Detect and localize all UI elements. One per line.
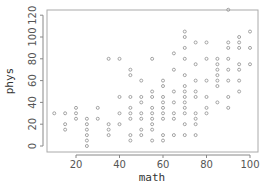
data-point (216, 74, 219, 77)
data-point (162, 134, 165, 137)
y-tick-label: 100 (27, 27, 38, 46)
data-point (107, 128, 110, 131)
data-point (118, 123, 121, 126)
data-point (162, 79, 165, 82)
data-point (172, 68, 175, 71)
data-point (129, 117, 132, 120)
data-point (183, 101, 186, 104)
data-point (140, 134, 143, 137)
data-point (194, 134, 197, 137)
data-point (162, 95, 165, 98)
data-point (129, 139, 132, 142)
data-point (75, 112, 78, 115)
x-tick-label: 20 (70, 159, 83, 170)
data-point (96, 117, 99, 120)
data-point (162, 139, 165, 142)
data-point (183, 106, 186, 109)
data-point (129, 68, 132, 71)
data-point (162, 85, 165, 88)
data-point (75, 106, 78, 109)
data-point (118, 57, 121, 60)
data-point (151, 95, 154, 98)
data-point (129, 74, 132, 77)
data-point (227, 95, 230, 98)
data-point (238, 79, 241, 82)
data-point (140, 112, 143, 115)
data-point (249, 63, 252, 66)
data-point (216, 85, 219, 88)
x-tick-label: 80 (200, 159, 213, 170)
data-point (183, 134, 186, 137)
data-point (96, 106, 99, 109)
data-point (205, 112, 208, 115)
data-point (151, 57, 154, 60)
x-tick-label: 40 (113, 159, 126, 170)
data-point (183, 30, 186, 33)
data-point (183, 123, 186, 126)
data-point (227, 79, 230, 82)
data-point (151, 128, 154, 131)
data-point (205, 41, 208, 44)
x-axis-label: math (139, 171, 166, 184)
data-point (85, 123, 88, 126)
data-point (183, 46, 186, 49)
data-point (85, 134, 88, 137)
data-point (194, 112, 197, 115)
y-tick-label: 20 (27, 118, 38, 131)
data-point (249, 46, 252, 49)
x-axis: 20406080100 (70, 155, 260, 170)
data-point (194, 117, 197, 120)
data-point (118, 112, 121, 115)
data-point (64, 112, 67, 115)
data-point (183, 36, 186, 39)
data-point (194, 90, 197, 93)
data-point (151, 90, 154, 93)
data-point (151, 112, 154, 115)
data-point (183, 112, 186, 115)
data-point (216, 57, 219, 60)
data-points (53, 8, 252, 147)
data-point (172, 90, 175, 93)
y-axis-label: phys (3, 68, 16, 95)
data-point (238, 90, 241, 93)
x-tick-label: 100 (240, 159, 259, 170)
data-point (227, 57, 230, 60)
data-point (216, 63, 219, 66)
y-axis: 020406080100120 (27, 6, 43, 150)
data-point (64, 123, 67, 126)
data-point (118, 95, 121, 98)
data-point (194, 123, 197, 126)
data-point (107, 134, 110, 137)
data-point (140, 117, 143, 120)
data-point (129, 106, 132, 109)
data-point (183, 95, 186, 98)
data-point (194, 79, 197, 82)
data-point (172, 117, 175, 120)
y-tick-label: 120 (27, 6, 38, 25)
data-point (151, 123, 154, 126)
data-point (205, 95, 208, 98)
data-point (162, 112, 165, 115)
data-point (194, 63, 197, 66)
data-point (205, 57, 208, 60)
data-point (183, 57, 186, 60)
data-point (227, 46, 230, 49)
data-point (183, 85, 186, 88)
data-point (205, 106, 208, 109)
data-point (216, 101, 219, 104)
data-point (249, 30, 252, 33)
data-point (85, 145, 88, 148)
data-point (85, 128, 88, 131)
data-point (53, 112, 56, 115)
data-point (216, 79, 219, 82)
data-point (107, 57, 110, 60)
data-point (172, 112, 175, 115)
data-point (151, 106, 154, 109)
data-point (140, 95, 143, 98)
data-point (129, 134, 132, 137)
data-point (172, 134, 175, 137)
x-tick-label: 60 (157, 159, 170, 170)
y-tick-label: 40 (27, 96, 38, 109)
y-tick-label: 0 (27, 143, 38, 149)
data-point (238, 63, 241, 66)
